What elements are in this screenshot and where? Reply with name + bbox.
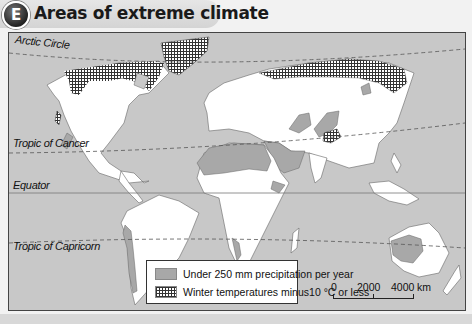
legend-item-dry: Under 250 mm precipitation per year xyxy=(155,267,353,280)
dry-swatch-icon xyxy=(155,268,177,280)
world-map: Arctic Circle Tropic of Cancer Equator T… xyxy=(8,32,466,311)
equator-label: Equator xyxy=(13,179,49,191)
scale-bar: 0 2000 4000 km xyxy=(329,281,449,305)
title-bar: E Areas of extreme climate xyxy=(0,0,220,28)
section-badge: E xyxy=(2,1,30,29)
tropic-of-capricorn-label: Tropic of Capricorn xyxy=(13,240,100,252)
map-legend: Under 250 mm precipitation per year Wint… xyxy=(146,260,298,304)
bottom-band xyxy=(0,314,472,324)
tropic-of-cancer-label: Tropic of Cancer xyxy=(13,137,89,149)
cold-pattern-icon xyxy=(155,286,177,298)
map-title: Areas of extreme climate xyxy=(34,3,269,23)
